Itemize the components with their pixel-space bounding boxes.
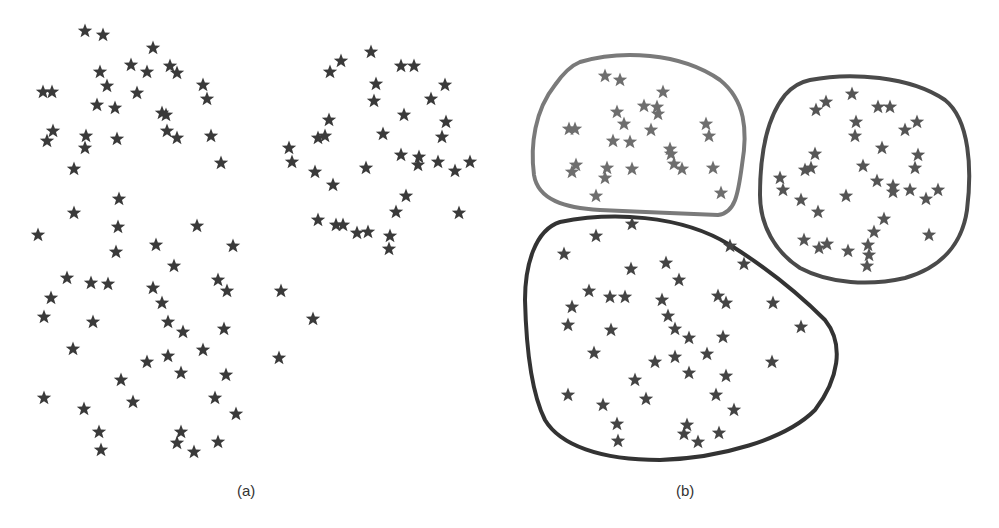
star-point — [170, 131, 184, 145]
star-point — [463, 155, 477, 169]
star-point — [610, 105, 624, 119]
star-point — [394, 148, 408, 162]
star-point — [448, 164, 462, 178]
star-point — [682, 331, 696, 345]
star-point — [589, 229, 603, 243]
panel-b-caption: (b) — [676, 482, 694, 499]
star-point — [606, 134, 620, 148]
star-point — [84, 276, 98, 290]
star-point — [870, 174, 884, 188]
star-point — [691, 435, 705, 449]
star-point — [861, 238, 875, 252]
star-point — [226, 239, 240, 253]
star-point — [903, 183, 917, 197]
star-point — [350, 226, 364, 240]
star-point — [326, 178, 340, 192]
star-point — [908, 161, 922, 175]
star-point — [659, 256, 673, 270]
star-point — [625, 162, 639, 176]
star-point — [797, 233, 811, 247]
star-point — [155, 296, 169, 310]
star-point — [163, 59, 177, 73]
panel-b-clusters — [525, 55, 969, 460]
star-point — [66, 342, 80, 356]
star-point — [765, 355, 779, 369]
star-point — [407, 59, 421, 73]
star-point — [714, 186, 728, 200]
star-point — [871, 100, 885, 114]
star-point — [702, 129, 716, 143]
panel-a-scatter — [31, 24, 477, 459]
star-point — [308, 165, 322, 179]
star-point — [40, 134, 54, 148]
star-point — [624, 262, 638, 276]
star-point — [161, 315, 175, 329]
star-point — [282, 141, 296, 155]
star-point — [431, 155, 445, 169]
star-point — [211, 435, 225, 449]
star-point — [561, 388, 575, 402]
star-point — [367, 94, 381, 108]
panel-a-caption: (a) — [237, 482, 255, 499]
star-point — [285, 155, 299, 169]
star-point — [86, 315, 100, 329]
star-point — [435, 130, 449, 144]
cluster-top-left — [533, 55, 745, 215]
star-point — [174, 425, 188, 439]
star-point — [78, 141, 92, 155]
star-point — [140, 65, 154, 79]
star-point — [190, 219, 204, 233]
star-point — [376, 127, 390, 141]
star-point — [886, 185, 900, 199]
star-point — [90, 98, 104, 112]
star-point — [334, 54, 348, 68]
star-point — [877, 212, 891, 226]
star-point — [174, 366, 188, 380]
star-point — [200, 92, 214, 106]
star-point — [661, 309, 675, 323]
star-point — [208, 391, 222, 405]
star-point — [37, 310, 51, 324]
star-point — [565, 300, 579, 314]
star-point — [919, 192, 933, 206]
clustering-figure — [0, 0, 999, 528]
star-point — [819, 95, 833, 109]
star-point — [160, 124, 174, 138]
star-point — [274, 284, 288, 298]
star-point — [911, 148, 925, 162]
star-point — [883, 100, 897, 114]
star-point — [856, 159, 870, 173]
star-point — [101, 277, 115, 291]
star-point — [611, 434, 625, 448]
star-point — [639, 392, 653, 406]
star-point — [306, 312, 320, 326]
star-point — [452, 206, 466, 220]
star-point — [229, 407, 243, 421]
star-point — [839, 189, 853, 203]
star-point — [794, 320, 808, 334]
star-point — [140, 355, 154, 369]
star-point — [364, 45, 378, 59]
star-point — [794, 193, 808, 207]
star-point — [214, 156, 228, 170]
star-point — [610, 417, 624, 431]
star-point — [322, 113, 336, 127]
star-point — [130, 86, 144, 100]
star-point — [766, 296, 780, 310]
star-point — [922, 228, 936, 242]
star-point — [217, 322, 231, 336]
star-point — [31, 228, 45, 242]
star-point — [272, 351, 286, 365]
star-point — [808, 147, 822, 161]
star-point — [96, 28, 110, 42]
star-point — [110, 132, 124, 146]
star-point — [92, 425, 106, 439]
star-point — [623, 135, 637, 149]
star-point — [699, 117, 713, 131]
star-point — [776, 183, 790, 197]
star-point — [587, 346, 601, 360]
star-point — [60, 271, 74, 285]
star-point — [94, 443, 108, 457]
star-point — [161, 349, 175, 363]
star-point — [167, 259, 181, 273]
